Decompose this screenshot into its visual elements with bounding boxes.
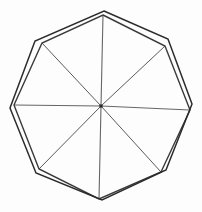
radius-line-vertical-top	[101, 15, 103, 106]
radius-line-diagonal-upper-right	[101, 46, 165, 106]
radius-line-horizontal-left	[14, 105, 101, 106]
radius-line-diagonal-lower-left	[39, 106, 101, 169]
octagon-figure-svg	[0, 0, 202, 212]
figure-container	[0, 0, 202, 212]
radius-line-horizontal-right	[101, 106, 190, 110]
center-point	[99, 104, 103, 108]
radius-line-vertical-bottom	[99, 106, 101, 199]
radius-line-diagonal-lower-right	[101, 106, 161, 172]
radius-line-diagonal-upper-left	[42, 43, 101, 106]
